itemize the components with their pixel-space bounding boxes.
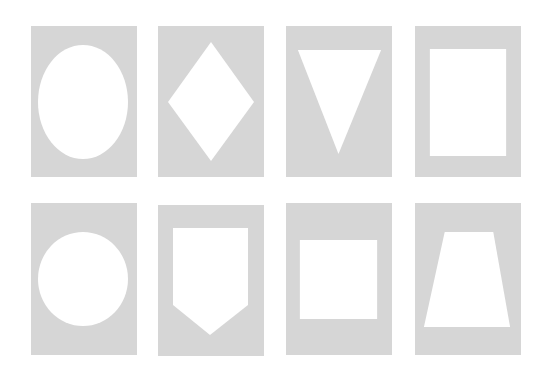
card-trapezoid bbox=[415, 203, 521, 355]
card-circle bbox=[31, 203, 137, 355]
circle-icon bbox=[31, 203, 137, 355]
card-square bbox=[286, 203, 392, 355]
inverted-triangle-icon bbox=[286, 26, 392, 177]
shield-pentagon-icon bbox=[158, 205, 264, 356]
card-rectangle bbox=[415, 26, 521, 177]
card-inverted-triangle bbox=[286, 26, 392, 177]
rectangle-icon bbox=[415, 26, 521, 177]
trapezoid-icon bbox=[415, 203, 521, 355]
card-diamond bbox=[158, 26, 264, 177]
oval-icon bbox=[31, 26, 137, 177]
diamond-icon bbox=[158, 26, 264, 177]
card-shield-pentagon bbox=[158, 205, 264, 356]
card-oval bbox=[31, 26, 137, 177]
square-icon bbox=[286, 203, 392, 355]
